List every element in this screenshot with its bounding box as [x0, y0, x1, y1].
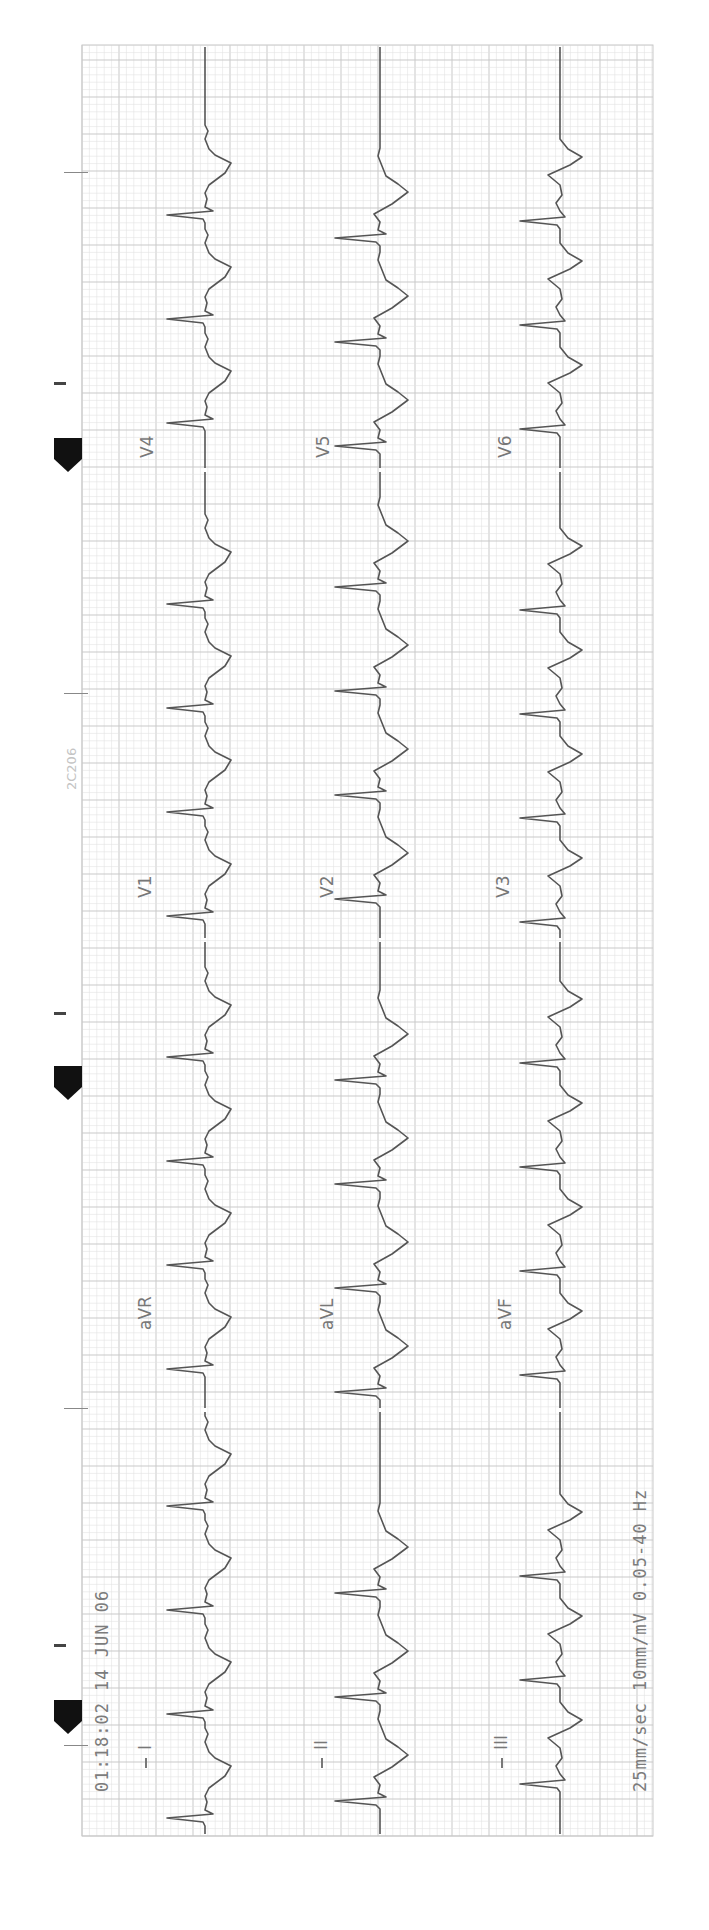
lead-label-V1: V1 [135, 876, 155, 898]
event-tick-3 [54, 1644, 66, 1647]
ecg-trace-segment [335, 472, 408, 938]
event-tick-2 [54, 1012, 66, 1015]
ecg-trace-segment [335, 47, 408, 468]
ecg-trace-segment [520, 1412, 582, 1834]
lead-label-aVR: aVR [135, 1296, 155, 1330]
lead-label-V3: V3 [493, 876, 513, 898]
ecg-trace-segment [520, 942, 582, 1408]
ecg-trace-segment [520, 472, 582, 938]
lead-label-II: II [311, 1740, 331, 1768]
segment-tick [64, 1745, 88, 1746]
ecg-trace-segment [167, 472, 231, 938]
segment-tick [64, 1408, 88, 1409]
segment-tick [64, 172, 88, 173]
stamp-text: 2C206 [64, 748, 79, 790]
ecg-trace-segment [167, 47, 231, 468]
ecg-trace-segment [335, 942, 408, 1408]
recording-settings: 25mm/sec 10mm/mV 0.05-40 Hz [630, 1489, 650, 1792]
ecg-trace-segment [167, 1412, 231, 1834]
lead-label-V4: V4 [137, 436, 157, 458]
ecg-trace-segment [335, 1412, 408, 1834]
lead-label-III: III [491, 1735, 511, 1768]
event-tick-1 [54, 382, 66, 385]
ecg-trace-segment [167, 942, 231, 1408]
ecg-grid [82, 45, 653, 1836]
ecg-trace-segment [520, 47, 582, 468]
lead-label-I: I [135, 1745, 155, 1768]
lead-label-V2: V2 [317, 876, 337, 898]
lead-label-aVL: aVL [317, 1298, 337, 1330]
lead-label-aVF: aVF [495, 1298, 515, 1330]
lead-label-V6: V6 [495, 436, 515, 458]
segment-tick [64, 693, 88, 694]
timestamp: 01:18:02 14 JUN 06 [92, 1590, 112, 1792]
lead-label-V5: V5 [313, 436, 333, 458]
